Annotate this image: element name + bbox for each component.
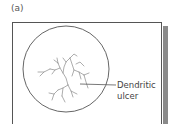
callout-leader-line [80, 84, 116, 85]
callout-line-1: Dendritic [117, 80, 156, 91]
callout-line-2: ulcer [117, 91, 156, 102]
cornea-circle [23, 26, 109, 112]
dendritic-ulcer-branches [38, 54, 89, 102]
eye-diagram [0, 0, 172, 124]
callout-label: Dendritic ulcer [117, 80, 156, 102]
